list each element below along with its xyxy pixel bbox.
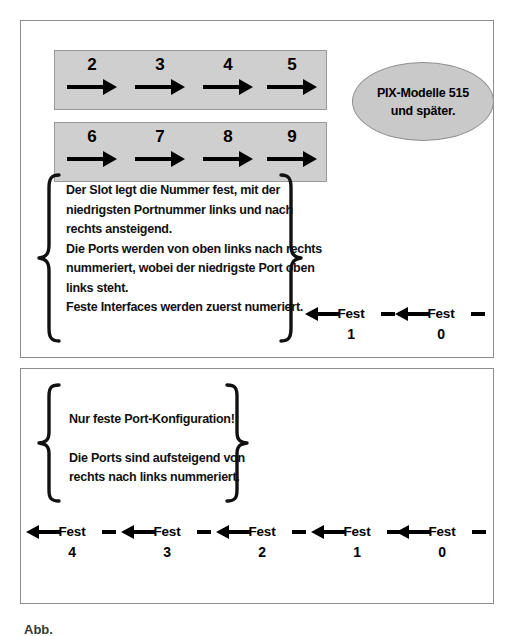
- arrow-right-icon: [197, 151, 259, 167]
- slot-port: 6: [61, 127, 123, 177]
- ellipse-line-2: und später.: [391, 102, 455, 120]
- port-number: 5: [261, 55, 323, 75]
- note-text-pix-506: Nur feste Port-Konfiguration! Die Ports …: [69, 410, 245, 488]
- fest-marker: Fest 0: [393, 305, 489, 344]
- fest-marker: Fest 1: [303, 305, 399, 344]
- arrow-right-icon: [61, 79, 123, 95]
- port-number: 9: [261, 127, 323, 147]
- arrow-right-icon: [61, 151, 123, 167]
- fest-dash-icon: [197, 530, 211, 534]
- fest-number: 0: [394, 543, 490, 562]
- port-number: 7: [129, 127, 191, 147]
- fest-number: 0: [393, 325, 489, 344]
- fest-dash-icon: [471, 312, 485, 316]
- fest-number: 4: [24, 543, 120, 562]
- note-line: rechts nach links nummeriert.: [69, 468, 245, 488]
- right-brace-icon: [279, 172, 305, 344]
- fest-marker: Fest 3: [119, 523, 215, 562]
- slot-bar-upper: 2 3 4 5: [54, 50, 327, 110]
- arrow-right-icon: [129, 151, 191, 167]
- note-line: Nur feste Port-Konfiguration!: [69, 410, 245, 430]
- slot-port: 8: [197, 127, 259, 177]
- port-number: 8: [197, 127, 259, 147]
- figure-caption-partial: Abb.: [24, 622, 53, 636]
- slot-port: 5: [261, 55, 323, 105]
- panel-pix-506: PIX-Modelle 506 und später. Nur feste Po…: [20, 368, 494, 604]
- fest-marker: Fest 1: [309, 523, 405, 562]
- left-brace-icon: [35, 382, 61, 504]
- arrow-right-icon: [261, 151, 323, 167]
- fest-marker: Fest 2: [214, 523, 310, 562]
- fest-marker: Fest 4: [24, 523, 120, 562]
- arrow-right-icon: [197, 79, 259, 95]
- port-number: 3: [129, 55, 191, 75]
- left-brace-icon: [35, 172, 61, 344]
- fest-dash-icon: [472, 530, 486, 534]
- right-brace-icon: [225, 382, 251, 504]
- slot-port: 9: [261, 127, 323, 177]
- fest-dash-icon: [292, 530, 306, 534]
- slot-port: 2: [61, 55, 123, 105]
- port-number: 2: [61, 55, 123, 75]
- fest-number: 1: [309, 543, 405, 562]
- panel-pix-515: 2 3 4 5: [20, 20, 494, 358]
- fest-number: 1: [303, 325, 399, 344]
- arrow-right-icon: [261, 79, 323, 95]
- fest-marker: Fest 0: [394, 523, 490, 562]
- figure-canvas: 2 3 4 5: [0, 0, 511, 636]
- slot-port: 3: [129, 55, 191, 105]
- slot-port: 7: [129, 127, 191, 177]
- slot-port: 4: [197, 55, 259, 105]
- port-number: 4: [197, 55, 259, 75]
- note-line: Die Ports sind aufsteigend von: [69, 449, 245, 469]
- port-number: 6: [61, 127, 123, 147]
- fest-number: 2: [214, 543, 310, 562]
- callout-ellipse-pix-515: PIX-Modelle 515 und später.: [352, 62, 494, 141]
- ellipse-line-1: PIX-Modelle 515: [377, 84, 469, 102]
- fest-dash-icon: [102, 530, 116, 534]
- fest-number: 3: [119, 543, 215, 562]
- arrow-right-icon: [129, 79, 191, 95]
